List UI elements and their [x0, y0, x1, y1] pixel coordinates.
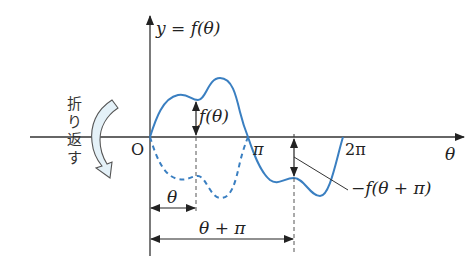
tick-label-2pi: 2π [345, 142, 366, 158]
fold-char-3: 返 [66, 131, 82, 149]
leader-line [294, 157, 348, 190]
tick-label-pi: π [253, 142, 264, 158]
distance-label-theta: θ [167, 189, 177, 206]
fold-text: 折 り 返 す [66, 95, 82, 167]
value-label-neg-f: −f(θ + π) [351, 180, 431, 197]
fold-char-4: す [66, 149, 82, 167]
value-label-f-theta: f(θ) [199, 108, 229, 125]
fold-arrow-icon [92, 100, 118, 178]
fold-char-1: 折 [66, 95, 82, 113]
curve-reflected [150, 137, 248, 198]
function-label: y = f(θ) [156, 20, 220, 37]
distance-label-theta-plus-pi: θ + π [199, 220, 245, 237]
origin-label: O [131, 142, 144, 158]
x-axis-label: θ [445, 146, 455, 163]
fold-char-2: り [66, 113, 82, 131]
